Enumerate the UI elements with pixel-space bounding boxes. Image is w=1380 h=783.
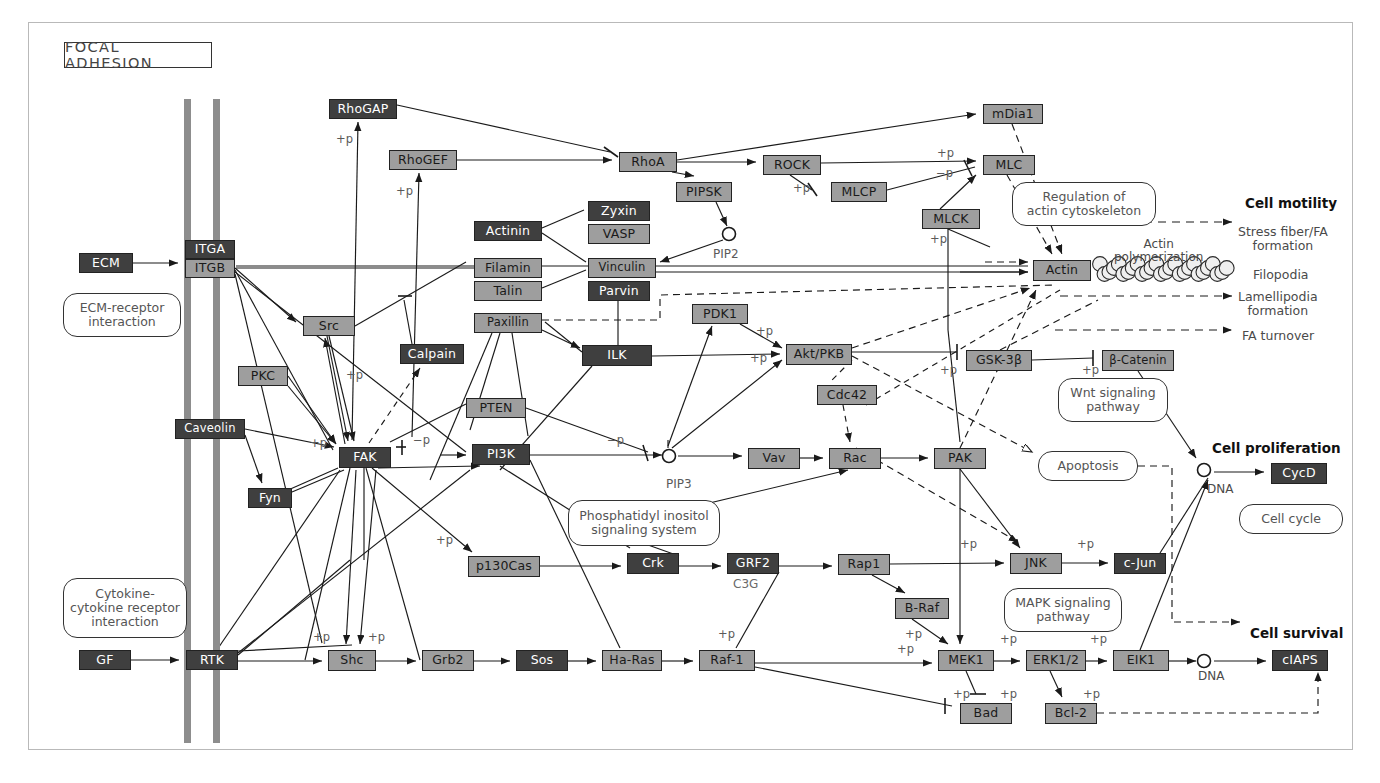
node-label: PAK xyxy=(948,452,972,465)
node-pi3k[interactable]: PI3K xyxy=(472,444,530,465)
node-pak[interactable]: PAK xyxy=(934,448,986,469)
node-bad[interactable]: Bad xyxy=(960,703,1012,724)
node-label: Actin xyxy=(1046,264,1079,277)
node-zyxin[interactable]: Zyxin xyxy=(588,201,650,221)
phospho-label-p-bad-left: +p xyxy=(953,688,970,701)
node-calpain[interactable]: Calpain xyxy=(400,344,464,364)
node-crk[interactable]: Crk xyxy=(627,553,679,574)
node-ecm[interactable]: ECM xyxy=(79,253,133,273)
pathway-link-line: Apoptosis xyxy=(1057,459,1118,473)
node-mlcp[interactable]: MLCP xyxy=(831,182,887,202)
node-rap1[interactable]: Rap1 xyxy=(838,554,890,575)
phospho-label-p-mek-erk: +p xyxy=(1000,633,1017,646)
node-label: Zyxin xyxy=(601,205,637,218)
node-label: Ha-Ras xyxy=(609,654,654,667)
node-talin[interactable]: Talin xyxy=(474,281,542,301)
node-gf[interactable]: GF xyxy=(79,650,131,670)
node-label: GF xyxy=(96,654,113,667)
node-parvin[interactable]: Parvin xyxy=(588,281,650,301)
node-label: EIK1 xyxy=(1127,654,1156,667)
node-label: cIAPS xyxy=(1282,654,1318,667)
node-aktpkb[interactable]: Akt/PKB xyxy=(786,344,852,365)
node-mlck[interactable]: MLCK xyxy=(922,209,980,229)
node-itgb[interactable]: ITGB xyxy=(185,259,235,278)
pathway-link-apoptosis[interactable]: Apoptosis xyxy=(1038,451,1138,481)
node-fyn[interactable]: Fyn xyxy=(248,488,292,508)
node-pkc[interactable]: PKC xyxy=(238,366,288,386)
node-label: PTEN xyxy=(479,402,512,415)
label-cell-motility: Cell motility xyxy=(1245,196,1337,211)
node-rock[interactable]: ROCK xyxy=(763,155,821,175)
node-ciaps[interactable]: cIAPS xyxy=(1272,650,1328,671)
node-cycd[interactable]: CycD xyxy=(1271,463,1327,484)
node-jnk[interactable]: JNK xyxy=(1010,553,1062,574)
pathway-link-wnt[interactable]: Wnt signalingpathway xyxy=(1058,378,1168,422)
node-rhogef[interactable]: RhoGEF xyxy=(389,150,457,170)
label-dna-survival: DNA xyxy=(1198,670,1224,683)
pathway-link-cell-cycle[interactable]: Cell cycle xyxy=(1239,504,1343,534)
node-elk1[interactable]: EIK1 xyxy=(1113,650,1169,671)
node-vav[interactable]: Vav xyxy=(748,448,800,469)
pathway-link-line: Phosphatidyl inositol xyxy=(579,509,708,523)
node-cjun[interactable]: c-Jun xyxy=(1114,553,1166,574)
node-bcatenin[interactable]: β-Catenin xyxy=(1102,350,1174,371)
node-label: ITGB xyxy=(195,262,225,275)
node-pdk1[interactable]: PDK1 xyxy=(692,304,748,324)
node-haras[interactable]: Ha-Ras xyxy=(602,650,662,671)
node-fak[interactable]: FAK xyxy=(339,447,391,468)
node-pten[interactable]: PTEN xyxy=(466,398,526,418)
node-grb2[interactable]: Grb2 xyxy=(422,650,474,671)
phospho-label-p-src: +p xyxy=(346,369,363,382)
node-filamin[interactable]: Filamin xyxy=(474,258,542,278)
node-mdia1[interactable]: mDia1 xyxy=(983,104,1043,124)
pathway-link-pi-signaling[interactable]: Phosphatidyl inositolsignaling system xyxy=(568,500,720,546)
node-actin[interactable]: Actin xyxy=(1033,260,1091,281)
node-label: Bad xyxy=(974,707,999,720)
label-dna-prolif: DNA xyxy=(1207,483,1233,496)
node-paxillin[interactable]: Paxillin xyxy=(474,313,542,333)
node-raf1[interactable]: Raf-1 xyxy=(699,650,755,671)
node-rtk[interactable]: RTK xyxy=(186,650,238,670)
pathway-link-line: MAPK signaling xyxy=(1015,596,1110,610)
node-label: Bcl-2 xyxy=(1055,707,1087,720)
pathway-link-mapk[interactable]: MAPK signalingpathway xyxy=(1004,588,1122,632)
node-mlc[interactable]: MLC xyxy=(983,155,1035,175)
pathway-link-line: Regulation of xyxy=(1043,190,1126,204)
node-shc[interactable]: Shc xyxy=(328,650,376,671)
node-rhoa[interactable]: RhoA xyxy=(619,152,677,172)
node-vasp[interactable]: VASP xyxy=(588,224,650,244)
node-grf2[interactable]: GRF2 xyxy=(727,553,779,574)
node-label: ERK1/2 xyxy=(1033,654,1079,667)
node-pipsk[interactable]: PIPSK xyxy=(676,182,732,202)
node-erk12[interactable]: ERK1/2 xyxy=(1026,650,1086,671)
node-ilk[interactable]: ILK xyxy=(582,345,652,366)
pathway-link-reg-actin[interactable]: Regulation ofactin cytoskeleton xyxy=(1012,182,1156,226)
pathway-link-cytokine[interactable]: Cytokine-cytokine receptorinteraction xyxy=(63,578,187,638)
pathway-link-line: interaction xyxy=(91,615,159,629)
node-cdc42[interactable]: Cdc42 xyxy=(817,385,877,405)
label-cell-proliferation: Cell proliferation xyxy=(1212,441,1341,456)
dna-proliferation-node xyxy=(1198,464,1211,477)
node-vinculin[interactable]: Vinculin xyxy=(588,258,656,278)
node-itga[interactable]: ITGA xyxy=(185,240,235,259)
node-label: RhoA xyxy=(631,156,665,169)
phospho-label-p-ilk-akt: +p xyxy=(750,352,767,365)
node-label: Raf-1 xyxy=(710,654,743,667)
node-gsk3b[interactable]: GSK-3β xyxy=(966,350,1032,371)
node-label: MLCP xyxy=(842,186,877,199)
node-sos[interactable]: Sos xyxy=(516,650,568,671)
node-label: mDia1 xyxy=(992,108,1034,121)
node-rac[interactable]: Rac xyxy=(829,448,881,469)
node-mek1[interactable]: MEK1 xyxy=(938,650,994,671)
node-bcl2[interactable]: Bcl-2 xyxy=(1045,703,1097,724)
node-p130cas[interactable]: p130Cas xyxy=(468,556,540,577)
node-caveolin[interactable]: Caveolin xyxy=(175,419,245,439)
node-braf[interactable]: B-Raf xyxy=(895,598,949,619)
node-src[interactable]: Src xyxy=(303,316,355,336)
node-actinin[interactable]: Actinin xyxy=(474,221,542,241)
pip2-node xyxy=(723,228,736,241)
pathway-link-line: ECM-receptor xyxy=(80,301,165,315)
phospho-label-p-shc-left: +p xyxy=(313,631,330,644)
node-rhogap[interactable]: RhoGAP xyxy=(329,99,397,119)
pathway-link-ecm-receptor[interactable]: ECM-receptorinteraction xyxy=(63,293,181,337)
